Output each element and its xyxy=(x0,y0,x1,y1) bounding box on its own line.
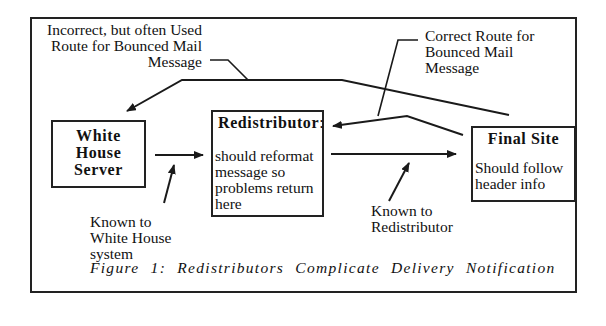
redistributor-node: Redistributor: should reformat message s… xyxy=(211,110,324,217)
node-body-line: message so xyxy=(215,164,314,180)
known-to-redistributor-label: Known to Redistributor xyxy=(371,203,453,235)
label-line: Known to xyxy=(371,203,453,219)
node-body-line: should reformat xyxy=(215,148,314,164)
label-line: Correct Route for xyxy=(425,28,534,44)
incorrect-route-label: Incorrect, but often Used Route for Boun… xyxy=(40,22,202,70)
known-to-wh-pointer xyxy=(164,165,174,203)
node-body-line: header info xyxy=(475,176,563,192)
node-body-line: here xyxy=(215,196,314,212)
node-title-line: White xyxy=(53,127,144,144)
correct-route-callout-line xyxy=(378,40,418,116)
known-to-redistributor-pointer xyxy=(389,163,409,201)
node-title: Final Site xyxy=(473,131,574,147)
label-line: White House xyxy=(90,230,171,246)
label-line: Message xyxy=(40,54,202,70)
figure-caption: Figure 1: Redistributors Complicate Deli… xyxy=(90,259,556,277)
node-body-line: Should follow xyxy=(475,160,563,176)
known-to-white-house-label: Known to White House system xyxy=(90,214,171,262)
node-title-suffix: : xyxy=(319,114,324,131)
label-line: Redistributor xyxy=(371,219,453,235)
correct-route-label: Correct Route for Bounced Mail Message xyxy=(425,28,534,76)
node-title-line: Server xyxy=(53,161,144,178)
node-title-line: House xyxy=(53,144,144,161)
label-line: Known to xyxy=(90,214,171,230)
label-line: Message xyxy=(425,60,534,76)
final-site-node: Final Site Should follow header info xyxy=(471,126,576,202)
label-line: Bounced Mail xyxy=(425,44,534,60)
node-body-line: problems return xyxy=(215,180,314,196)
incorrect-route-callout-line xyxy=(210,60,248,80)
white-house-server-node: White House Server xyxy=(51,120,146,188)
correct-route-arrow xyxy=(333,116,463,135)
label-line: Route for Bounced Mail xyxy=(40,38,202,54)
node-title: Redistributor xyxy=(218,114,319,131)
label-line: Incorrect, but often Used xyxy=(40,22,202,38)
